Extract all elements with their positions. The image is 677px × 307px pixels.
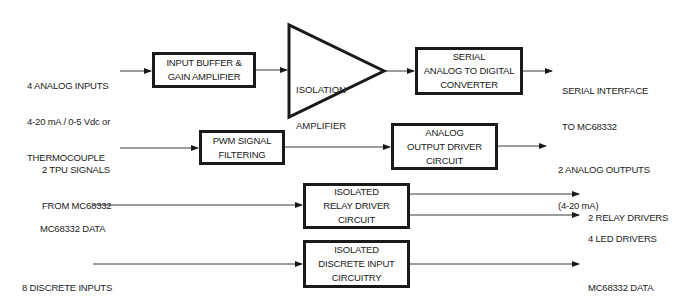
isolated-relay-driver-block: ISOLATED RELAY DRIVER CIRCUIT — [303, 183, 410, 229]
block-label: OUTPUT DRIVER — [407, 140, 482, 154]
mc68332-data-input-label: MC68332 DATA — [40, 199, 105, 247]
block-label: CIRCUIT — [426, 154, 463, 168]
block-label: SERIAL — [453, 50, 486, 64]
input-buffer-gain-amplifier-block: INPUT BUFFER & GAIN AMPLIFIER — [152, 52, 256, 88]
isolation-amplifier-label: ISOLATION AMPLIFIER — [296, 60, 346, 144]
data-out-text: MC68332 DATA — [588, 282, 653, 294]
serial-adc-block: SERIAL ANALOG TO DIGITAL CONVERTER — [415, 47, 523, 95]
analog-out-line-1: 2 ANALOG OUTPUTS — [558, 164, 650, 176]
analog-inputs-line-2: 4-20 mA / 0-5 Vdc or — [27, 116, 110, 128]
block-label: AMPLIFIER — [296, 120, 346, 132]
block-label: DISCRETE INPUT — [318, 257, 394, 271]
block-label: INPUT BUFFER & — [166, 56, 241, 70]
block-label: CONVERTER — [440, 78, 498, 92]
block-label: PWM SIGNAL — [213, 134, 272, 148]
serial-interface-label: SERIAL INTERFACE TO MC68332 — [562, 61, 648, 145]
block-label: ANALOG TO DIGITAL — [424, 64, 515, 78]
tpu-line-1: 2 TPU SIGNALS — [42, 164, 111, 176]
mc68332-data-output-label: MC68332 DATA — [588, 258, 653, 306]
serial-out-line-1: SERIAL INTERFACE — [562, 85, 648, 97]
block-label: CIRCUIT — [338, 213, 375, 227]
led-drivers-label: 4 LED DRIVERS — [588, 209, 657, 257]
block-label: ANALOG — [425, 126, 463, 140]
block-label: FILTERING — [218, 148, 265, 162]
isolated-discrete-input-block: ISOLATED DISCRETE INPUT CIRCUITRY — [303, 240, 410, 288]
block-label: ISOLATION — [296, 84, 346, 96]
block-label: RELAY DRIVER — [323, 199, 389, 213]
block-label: CIRCUITRY — [332, 271, 382, 285]
analog-output-driver-block: ANALOG OUTPUT DRIVER CIRCUIT — [391, 123, 498, 170]
data-in-text: MC68332 DATA — [40, 223, 105, 235]
discrete-inputs-label: 8 DISCRETE INPUTS — [22, 258, 112, 306]
block-label: ISOLATED — [334, 243, 379, 257]
block-label: GAIN AMPLIFIER — [168, 70, 241, 84]
serial-out-line-2: TO MC68332 — [562, 121, 648, 133]
discrete-in-text: 8 DISCRETE INPUTS — [22, 282, 112, 294]
analog-inputs-line-1: 4 ANALOG INPUTS — [27, 80, 110, 92]
led-out-text: 4 LED DRIVERS — [588, 233, 657, 245]
pwm-signal-filtering-block: PWM SIGNAL FILTERING — [199, 130, 285, 165]
block-label: ISOLATED — [334, 185, 379, 199]
